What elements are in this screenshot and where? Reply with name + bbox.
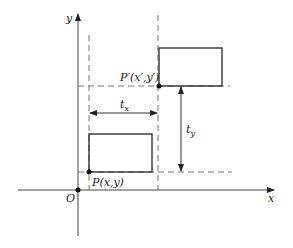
ty-label: ty [186, 123, 195, 138]
original-rectangle [89, 134, 152, 172]
translated-rectangle [159, 48, 222, 86]
y-axis-label: y [65, 12, 73, 25]
point-p-label: P(x,y) [91, 176, 124, 189]
point-p-prime [157, 84, 162, 89]
point-p [87, 170, 92, 175]
tx-label: tx [120, 98, 129, 113]
origin-label: O [66, 192, 75, 205]
x-axis-label: x [268, 192, 275, 205]
ty-label-subscript: y [189, 129, 195, 138]
translation-diagram: y x O P(x,y) P′(x′,y′) tx ty [0, 0, 293, 248]
guide-lines [78, 15, 232, 190]
tx-label-subscript: x [124, 104, 129, 113]
point-p-prime-label: P′(x′,y′) [119, 71, 159, 84]
origin-point [76, 188, 81, 193]
